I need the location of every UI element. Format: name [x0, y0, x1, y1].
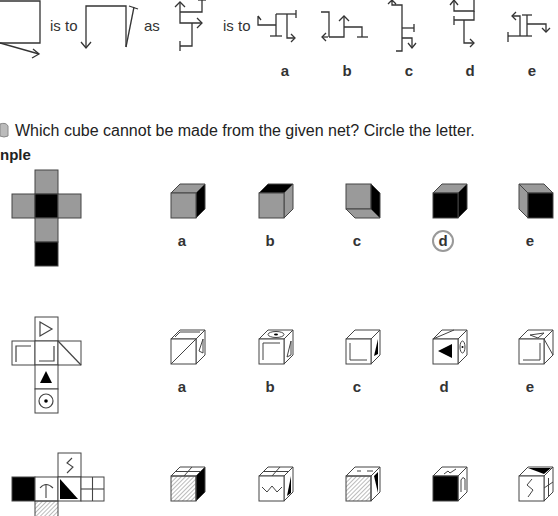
analogy-option-a-label[interactable]: a [275, 62, 295, 79]
connector-is-to-2: is to [223, 17, 251, 34]
q1-option-d[interactable]: d [434, 378, 454, 395]
q1-cube-b[interactable] [258, 329, 294, 365]
example-cube-a[interactable] [170, 183, 206, 219]
analogy-option-c-figure[interactable] [390, 0, 430, 52]
analogy-figure-3 [172, 0, 212, 55]
example-option-e[interactable]: e [520, 232, 540, 249]
q1-cube-e[interactable] [518, 329, 554, 365]
q2-cube-c[interactable] [345, 466, 381, 502]
analogy-option-b-figure[interactable] [320, 8, 370, 44]
q1-cube-d[interactable] [432, 329, 468, 365]
q1-option-a[interactable]: a [172, 378, 192, 395]
q2-cube-d[interactable] [432, 466, 468, 502]
example-cube-d[interactable] [432, 183, 468, 219]
analogy-option-e-label[interactable]: e [522, 62, 542, 79]
q1-option-c[interactable]: c [347, 378, 367, 395]
analogy-option-b-label[interactable]: b [337, 62, 357, 79]
question2-net [0, 0, 120, 516]
example-cube-c[interactable] [345, 183, 381, 219]
example-cube-b[interactable] [258, 183, 294, 219]
analogy-option-d-figure[interactable] [452, 0, 492, 50]
analogy-option-c-label[interactable]: c [399, 62, 419, 79]
q1-cube-c[interactable] [345, 329, 381, 365]
analogy-option-e-figure[interactable] [508, 10, 558, 46]
q2-cube-e[interactable] [518, 466, 554, 502]
example-option-d-circled[interactable]: d [432, 230, 454, 252]
q2-cube-b[interactable] [258, 466, 294, 502]
example-option-a[interactable]: a [172, 232, 192, 249]
q2-cube-a[interactable] [170, 466, 206, 502]
example-option-c[interactable]: c [347, 232, 367, 249]
q1-option-e[interactable]: e [520, 378, 540, 395]
connector-as: as [144, 17, 160, 34]
analogy-option-a-figure[interactable] [258, 8, 308, 44]
q1-cube-a[interactable] [170, 329, 206, 365]
example-cube-e[interactable] [518, 183, 554, 219]
analogy-option-d-label[interactable]: d [460, 62, 480, 79]
q1-option-b[interactable]: b [260, 378, 280, 395]
example-option-b[interactable]: b [260, 232, 280, 249]
